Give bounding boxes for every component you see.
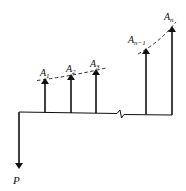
dashed-trend-right [138, 22, 176, 54]
time-axis-left [19, 112, 117, 114]
label-p: P [12, 174, 20, 186]
label-a2: A2 [65, 63, 76, 76]
axis-break-icon [117, 110, 124, 118]
label-an: An [163, 11, 174, 24]
label-an-1: An−1 [127, 34, 146, 47]
label-a3: A3 [89, 58, 100, 71]
label-a1: A1 [39, 67, 50, 80]
time-axis-right [124, 115, 172, 116]
cash-flow-diagram: P A1 A2 A3 An−1 An [0, 0, 186, 191]
